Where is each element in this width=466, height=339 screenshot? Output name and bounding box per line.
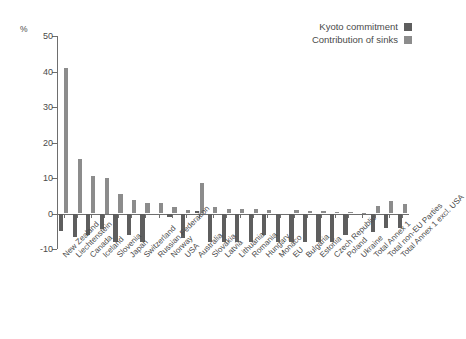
x-tick-mark <box>131 214 132 218</box>
bar-contribution-of-sinks <box>376 206 380 214</box>
bar-contribution-of-sinks <box>227 209 231 214</box>
bar-contribution-of-sinks <box>335 212 339 214</box>
legend-label-kyoto-commitment: Kyoto commitment <box>319 20 398 33</box>
bar-contribution-of-sinks <box>91 176 95 213</box>
bar-contribution-of-sinks <box>308 211 312 213</box>
bar-kyoto-commitment <box>127 214 131 235</box>
bar-contribution-of-sinks <box>294 210 298 213</box>
bar-contribution-of-sinks <box>254 209 258 214</box>
y-tick-label: 0 <box>48 209 53 219</box>
bar-contribution-of-sinks <box>213 207 217 213</box>
x-tick-mark <box>240 214 241 218</box>
y-tick-label: 50 <box>43 31 53 41</box>
x-tick-mark <box>91 214 92 218</box>
x-tick-mark <box>64 214 65 218</box>
y-tick-label: 20 <box>43 138 53 148</box>
bar-kyoto-commitment <box>303 214 307 242</box>
x-tick-mark <box>172 214 173 218</box>
x-tick-mark <box>77 214 78 218</box>
bar-series-group <box>57 36 409 249</box>
bar-kyoto-commitment <box>262 214 266 235</box>
y-tick-label: 30 <box>43 102 53 112</box>
bar-contribution-of-sinks <box>348 212 352 213</box>
x-tick-mark <box>213 214 214 218</box>
bar-kyoto-commitment <box>384 214 388 228</box>
y-tick-label: 40 <box>43 67 53 77</box>
x-tick-mark <box>402 214 403 218</box>
bar-contribution-of-sinks <box>159 203 163 213</box>
bar-contribution-of-sinks <box>389 201 393 213</box>
bar-contribution-of-sinks <box>186 210 190 214</box>
x-tick-mark <box>226 214 227 218</box>
bar-kyoto-commitment <box>343 214 347 235</box>
bar-contribution-of-sinks <box>240 209 244 214</box>
x-tick-mark <box>186 214 187 218</box>
x-tick-mark <box>321 214 322 218</box>
bar-contribution-of-sinks <box>403 204 407 214</box>
x-tick-mark <box>307 214 308 218</box>
bar-contribution-of-sinks <box>105 178 109 214</box>
bar-kyoto-commitment <box>167 214 171 218</box>
bar-contribution-of-sinks <box>132 200 136 213</box>
plot-area: 50403020100-10 <box>57 36 409 249</box>
x-tick-mark <box>267 214 268 218</box>
y-axis-unit-label: % <box>20 24 28 34</box>
bar-contribution-of-sinks <box>321 211 325 213</box>
bar-contribution-of-sinks <box>78 159 82 213</box>
legend-swatch-kyoto-commitment <box>404 23 412 31</box>
bar-kyoto-commitment <box>59 214 63 232</box>
x-tick-mark <box>294 214 295 218</box>
y-tick-label: 10 <box>43 173 53 183</box>
x-tick-mark <box>104 214 105 218</box>
bar-kyoto-commitment <box>73 214 77 237</box>
x-tick-mark <box>362 214 363 218</box>
x-tick-mark <box>348 214 349 218</box>
x-tick-mark <box>389 214 390 218</box>
x-tick-mark <box>335 214 336 218</box>
legend-item-kyoto-commitment: Kyoto commitment <box>312 20 412 33</box>
x-tick-mark <box>253 214 254 218</box>
bar-contribution-of-sinks <box>145 203 149 213</box>
bar-contribution-of-sinks <box>172 207 176 213</box>
x-tick-mark <box>280 214 281 218</box>
x-tick-mark <box>145 214 146 218</box>
x-tick-mark <box>159 214 160 218</box>
x-tick-mark <box>118 214 119 218</box>
bar-contribution-of-sinks <box>362 213 366 214</box>
bar-contribution-of-sinks <box>64 68 68 214</box>
bar-contribution-of-sinks <box>267 210 271 214</box>
bar-contribution-of-sinks <box>118 194 122 214</box>
y-tick-label: -10 <box>40 244 53 254</box>
